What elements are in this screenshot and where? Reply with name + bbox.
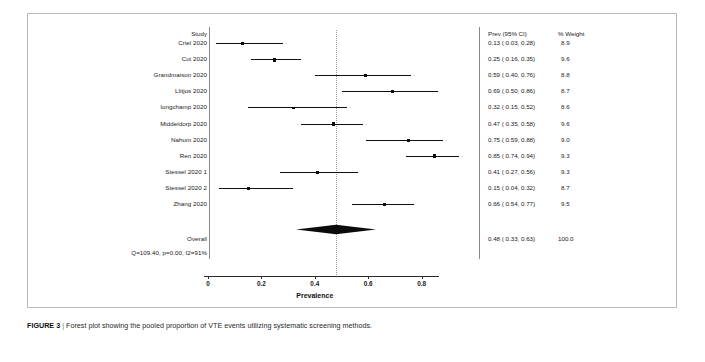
study-label: Stessel 2020 1 xyxy=(88,169,207,175)
stats-column-divider xyxy=(479,27,480,259)
point-estimate-marker xyxy=(433,154,436,158)
x-axis-tick-label: 0.6 xyxy=(354,281,382,287)
x-axis-line xyxy=(204,276,439,277)
x-axis-tick xyxy=(368,276,369,279)
figure-caption: FIGURE 3|Forest plot showing the pooled … xyxy=(27,322,677,331)
overall-effect-text: 0.48 ( 0.33, 0.63) xyxy=(488,236,535,242)
x-axis-tick xyxy=(261,276,262,279)
study-label: Cui 2020 xyxy=(88,56,207,62)
study-label: Nahum 2020 xyxy=(88,137,207,143)
column-header-weight: % Weight xyxy=(558,31,584,37)
x-axis-title: Prevalence xyxy=(275,292,355,299)
figure-caption-label: FIGURE 3 xyxy=(27,321,60,330)
study-label: Zhang 2020 xyxy=(88,201,207,207)
x-axis-tick-label: 0.8 xyxy=(408,281,436,287)
confidence-interval-line xyxy=(366,140,443,141)
plot-canvas: Study Prev (95% CI) % Weight Criel 20200… xyxy=(28,14,678,309)
study-label: Middeldorp 2020 xyxy=(88,121,207,127)
study-label: longchamp 2020 xyxy=(88,104,207,110)
point-estimate-marker xyxy=(332,122,335,126)
weight-text: 9.5 xyxy=(561,201,570,207)
effect-estimate-text: 0.13 ( 0.03, 0.28) xyxy=(488,40,535,46)
figure-caption-text: Forest plot showing the pooled proportio… xyxy=(66,321,372,330)
weight-text: 8.7 xyxy=(561,185,570,191)
study-column-divider xyxy=(209,27,210,259)
point-estimate-marker xyxy=(383,203,386,207)
column-header-effect: Prev (95% CI) xyxy=(488,31,527,37)
confidence-interval-line xyxy=(342,91,438,92)
confidence-interval-line xyxy=(406,156,459,157)
study-label: Llitjos 2020 xyxy=(88,88,207,94)
effect-estimate-text: 0.69 ( 0.50, 0.86) xyxy=(488,88,535,94)
point-estimate-marker xyxy=(273,58,276,62)
x-axis-tick-label: 0.4 xyxy=(301,281,329,287)
study-label: Criel 2020 xyxy=(88,40,207,46)
overall-weight-text: 100.0 xyxy=(558,236,573,242)
point-estimate-marker xyxy=(241,42,244,45)
weight-text: 8.7 xyxy=(561,88,570,94)
forest-plot-figure: Study Prev (95% CI) % Weight Criel 20200… xyxy=(0,0,705,362)
study-label: Grandmaison 2020 xyxy=(88,72,207,78)
confidence-interval-line xyxy=(248,107,347,108)
weight-text: 8.6 xyxy=(561,104,570,110)
effect-estimate-text: 0.41 ( 0.27, 0.56) xyxy=(488,169,535,175)
weight-text: 9.6 xyxy=(561,121,570,127)
effect-estimate-text: 0.59 ( 0.40, 0.76) xyxy=(488,72,535,78)
effect-estimate-text: 0.75 ( 0.59, 0.88) xyxy=(488,137,535,143)
overall-row-label: Overall xyxy=(118,236,207,242)
confidence-interval-line xyxy=(315,75,411,76)
study-label: Ren 2020 xyxy=(88,153,207,159)
effect-estimate-text: 0.25 ( 0.16, 0.35) xyxy=(488,56,535,62)
point-estimate-marker xyxy=(364,74,367,77)
x-axis-tick xyxy=(422,276,423,279)
weight-text: 9.0 xyxy=(561,137,570,143)
effect-estimate-text: 0.32 ( 0.15, 0.52) xyxy=(488,104,535,110)
x-axis-tick-label: 0 xyxy=(194,281,222,287)
point-estimate-marker xyxy=(391,90,394,93)
weight-text: 9.6 xyxy=(561,56,570,62)
heterogeneity-text: Q=109.40, p=0.00, I2=91% xyxy=(88,250,207,256)
x-axis-tick xyxy=(315,276,316,279)
pooled-diamond xyxy=(296,224,376,235)
point-estimate-marker xyxy=(316,171,319,175)
plot-frame: Study Prev (95% CI) % Weight Criel 20200… xyxy=(27,13,677,308)
weight-text: 9.3 xyxy=(561,153,570,159)
effect-estimate-text: 0.47 ( 0.35, 0.58) xyxy=(488,121,535,127)
confidence-interval-line xyxy=(219,188,294,189)
weight-text: 8.9 xyxy=(561,40,570,46)
x-axis-tick xyxy=(208,276,209,279)
column-header-study: Study xyxy=(169,31,207,37)
point-estimate-marker xyxy=(292,107,295,110)
study-label: Stessel 2020 2 xyxy=(88,185,207,191)
pooled-reference-line xyxy=(336,30,337,275)
weight-text: 9.3 xyxy=(561,169,570,175)
effect-estimate-text: 0.66 ( 0.54, 0.77) xyxy=(488,201,535,207)
confidence-interval-line xyxy=(216,43,283,44)
point-estimate-marker xyxy=(247,187,250,190)
effect-estimate-text: 0.15 ( 0.04, 0.32) xyxy=(488,185,535,191)
x-axis-tick-label: 0.2 xyxy=(247,281,275,287)
point-estimate-marker xyxy=(407,139,410,142)
weight-text: 8.8 xyxy=(561,72,570,78)
effect-estimate-text: 0.85 ( 0.74, 0.94) xyxy=(488,153,535,159)
